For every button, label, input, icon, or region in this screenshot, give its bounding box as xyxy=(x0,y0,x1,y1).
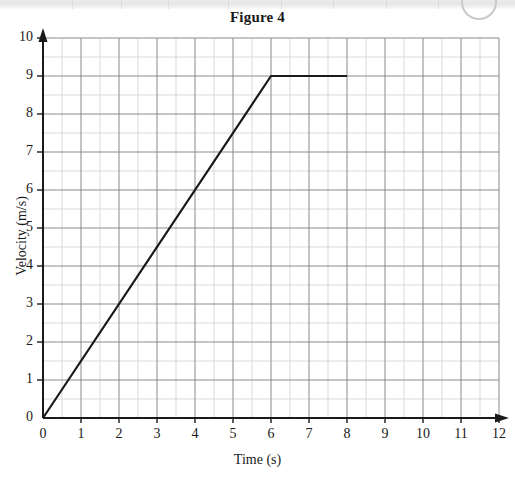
x-tick-label: 2 xyxy=(107,426,131,442)
x-tick-label: 6 xyxy=(259,426,283,442)
x-tick-label: 11 xyxy=(449,426,473,442)
y-tick-label: 8 xyxy=(11,105,33,121)
x-tick-label: 10 xyxy=(411,426,435,442)
y-tick-label: 2 xyxy=(11,333,33,349)
y-tick-label: 6 xyxy=(11,181,33,197)
x-tick-label: 1 xyxy=(69,426,93,442)
y-tick-label: 10 xyxy=(11,29,33,45)
velocity-time-chart: Time (s) Velocity (m/s) 0123456789101112… xyxy=(0,0,515,478)
x-tick-label: 5 xyxy=(221,426,245,442)
x-tick-label: 3 xyxy=(145,426,169,442)
y-axis-arrowhead xyxy=(39,28,48,42)
x-tick-label: 12 xyxy=(487,426,511,442)
y-tick-label: 5 xyxy=(11,219,33,235)
x-tick-label: 8 xyxy=(335,426,359,442)
x-tick-label: 9 xyxy=(373,426,397,442)
x-axis-title: Time (s) xyxy=(0,452,515,468)
y-tick-label: 4 xyxy=(11,257,33,273)
x-axis-arrowhead xyxy=(495,414,509,423)
axes xyxy=(39,28,510,423)
x-tick-label: 4 xyxy=(183,426,207,442)
x-tick-label: 0 xyxy=(31,426,55,442)
x-tick-label: 7 xyxy=(297,426,321,442)
y-tick-label: 1 xyxy=(11,371,33,387)
axis-ticks xyxy=(37,38,499,423)
chart-canvas xyxy=(0,0,515,478)
y-tick-label: 7 xyxy=(11,143,33,159)
y-tick-label: 9 xyxy=(11,67,33,83)
y-tick-label: 3 xyxy=(11,295,33,311)
y-tick-label: 0 xyxy=(11,409,33,425)
